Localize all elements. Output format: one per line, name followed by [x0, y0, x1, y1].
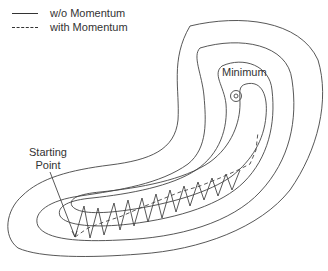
legend: w/o Momentum with Momentum: [0, 0, 170, 34]
starting-point-line1: Starting: [22, 146, 74, 159]
path-with-momentum: [75, 132, 258, 237]
legend-label: w/o Momentum: [50, 7, 125, 19]
contour-diagram: [0, 0, 328, 271]
minimum-label: Minimum: [222, 66, 267, 79]
contour-outer: [8, 20, 323, 256]
minimum-inner-circle: [234, 94, 238, 98]
path-without-momentum: [75, 170, 240, 238]
starting-point-line2: Point: [22, 159, 74, 172]
solid-line-icon: [12, 13, 38, 14]
starting-point-label: Starting Point: [22, 146, 74, 172]
legend-label: with Momentum: [50, 21, 128, 33]
dashed-line-icon: [12, 27, 38, 28]
